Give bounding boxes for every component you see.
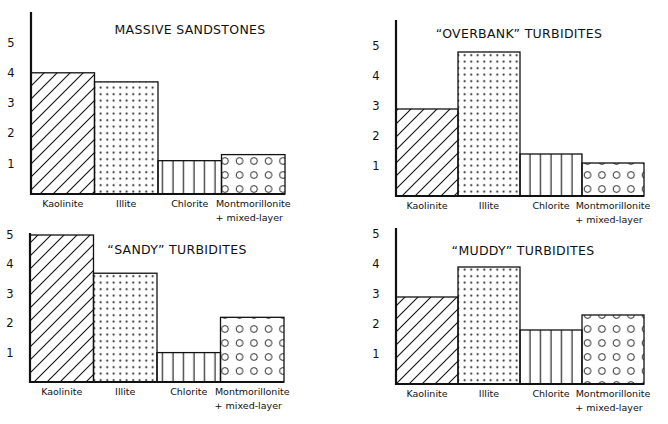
category-label: + mixed-layer [575,214,642,225]
category-label: Kaolinite [42,198,83,209]
y-tick-label: 2 [372,129,379,143]
category-label: Montmorillonite [576,200,651,211]
category-label: Chlorite [170,386,207,397]
category-label: Chlorite [532,388,569,399]
y-tick-label: 1 [7,157,14,171]
bar-kaolinite [396,109,458,196]
y-tick-label: 4 [7,66,14,80]
bar-chlorite [158,161,222,194]
category-label: Montmorillonite [215,386,290,397]
category-label: Kaolinite [406,388,447,399]
bar-chart-panel: “MUDDY” TURBIDITESKaoliniteIlliteChlorit… [372,227,650,413]
bar-illite [94,273,158,382]
y-tick-label: 1 [372,159,379,173]
category-label: Chlorite [171,198,208,209]
figure-canvas: MASSIVE SANDSTONESKaoliniteIlliteChlorit… [0,0,668,424]
category-label: Illite [115,386,135,397]
y-tick-label: 3 [6,287,13,301]
y-tick-label: 5 [372,39,379,53]
y-tick-label: 5 [372,227,379,241]
category-label: Illite [479,388,499,399]
category-label: Montmorillonite [576,388,651,399]
bar-chlorite [520,330,582,384]
bar-chart-panel: “SANDY” TURBIDITESKaoliniteIlliteChlorit… [6,228,289,411]
chart-title: “MUDDY” TURBIDITES [452,243,595,258]
category-label: Montmorillonite [216,198,291,209]
bar-montmorillonite [582,163,644,196]
bar-chlorite [157,353,221,382]
bar-kaolinite [396,297,458,384]
y-tick-label: 2 [7,126,14,140]
bar-kaolinite [30,235,94,382]
category-label: Illite [116,198,136,209]
y-tick-label: 1 [6,346,13,360]
bar-kaolinite [31,73,95,194]
bar-montmorillonite [222,155,286,194]
category-label: Kaolinite [406,200,447,211]
y-tick-label: 4 [372,69,379,83]
y-tick-label: 2 [372,317,379,331]
bar-chart-panel: MASSIVE SANDSTONESKaoliniteIlliteChlorit… [7,12,290,223]
bar-illite [95,82,159,194]
category-label: + mixed-layer [575,402,642,413]
y-tick-label: 4 [372,257,379,271]
chart-title: MASSIVE SANDSTONES [115,22,266,37]
bar-montmorillonite [582,315,644,384]
chart-title: “SANDY” TURBIDITES [107,242,246,257]
category-label: + mixed-layer [216,212,283,223]
bar-chlorite [520,154,582,196]
category-label: Kaolinite [41,386,82,397]
bar-montmorillonite [221,317,285,382]
y-tick-label: 5 [6,228,13,242]
bar-illite [458,52,520,196]
y-tick-label: 4 [6,257,13,271]
y-tick-label: 3 [372,287,379,301]
chart-panels: MASSIVE SANDSTONESKaoliniteIlliteChlorit… [6,12,650,413]
bar-illite [458,267,520,384]
bar-chart-panel: “OVERBANK” TURBIDITESKaoliniteIlliteChlo… [372,20,650,225]
chart-title: “OVERBANK” TURBIDITES [436,26,602,41]
y-tick-label: 3 [7,96,14,110]
category-label: Illite [479,200,499,211]
y-tick-label: 2 [6,316,13,330]
y-tick-label: 5 [7,36,14,50]
category-label: + mixed-layer [215,400,282,411]
y-tick-label: 3 [372,99,379,113]
y-tick-label: 1 [372,347,379,361]
category-label: Chlorite [532,200,569,211]
